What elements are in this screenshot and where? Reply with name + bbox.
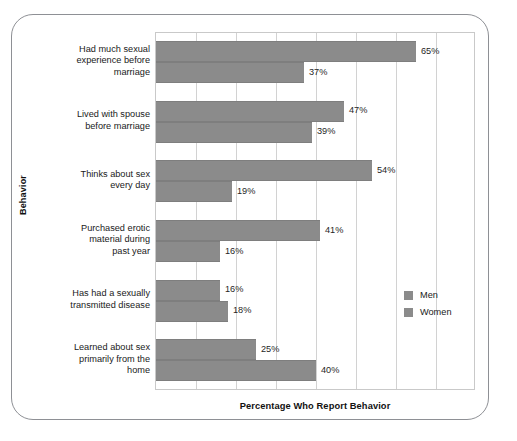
bar-value-label: 37% (309, 67, 327, 77)
category-label-line: Learned about sex (30, 342, 150, 354)
bar-value-label: 16% (225, 284, 243, 294)
category-label-line: home (30, 365, 150, 377)
bar-value-label: 25% (261, 344, 279, 354)
bar-men-0 (156, 41, 416, 62)
bar-value-label: 40% (321, 365, 339, 375)
bar-value-label: 16% (225, 246, 243, 256)
bar-women-4 (156, 301, 228, 322)
legend-item-women: Women (404, 305, 474, 319)
legend-swatch-icon (404, 308, 413, 317)
category-label: Learned about sexprimarily from thehome (30, 342, 150, 377)
bar-men-2 (156, 160, 372, 181)
chart-legend: MenWomen (404, 288, 474, 322)
bar-women-5 (156, 360, 316, 381)
bar-value-label: 39% (317, 126, 335, 136)
bar-value-label: 19% (237, 186, 255, 196)
category-label-line: experience before (30, 55, 150, 67)
bar-value-label: 18% (233, 305, 251, 315)
plot-area: 65%37%47%39%54%19%41%16%16%18%25%40% Men… (155, 32, 475, 390)
category-label: Lived with spousebefore marriage (30, 109, 150, 132)
y-axis-title: Behavior (18, 155, 28, 235)
category-label-line: primarily from the (30, 354, 150, 366)
category-label-line: marriage (30, 67, 150, 79)
category-label-line: material during (30, 234, 150, 246)
bar-women-1 (156, 122, 312, 143)
bar-men-1 (156, 101, 344, 122)
bar-value-label: 41% (325, 225, 343, 235)
bar-value-label: 47% (349, 105, 367, 115)
category-label-line: transmitted disease (30, 300, 150, 312)
category-label: Had much sexualexperience beforemarriage (30, 44, 150, 79)
category-label-line: every day (30, 180, 150, 192)
bar-women-2 (156, 181, 232, 202)
category-label: Has had a sexuallytransmitted disease (30, 288, 150, 311)
legend-swatch-icon (404, 291, 413, 300)
bar-men-5 (156, 339, 256, 360)
bars-layer: 65%37%47%39%54%19%41%16%16%18%25%40% (156, 33, 474, 389)
bar-men-4 (156, 280, 220, 301)
bar-women-3 (156, 241, 220, 262)
category-label-line: past year (30, 246, 150, 258)
legend-item-men: Men (404, 288, 474, 302)
bar-women-0 (156, 62, 304, 83)
chart-figure: Behavior Had much sexualexperience befor… (0, 0, 517, 441)
category-label-line: before marriage (30, 121, 150, 133)
category-label-column: Had much sexualexperience beforemarriage… (30, 32, 150, 390)
category-label: Thinks about sexevery day (30, 169, 150, 192)
bar-men-3 (156, 220, 320, 241)
category-label-line: Thinks about sex (30, 169, 150, 181)
bar-value-label: 65% (421, 46, 439, 56)
legend-label: Men (420, 290, 438, 300)
x-axis-title: Percentage Who Report Behavior (155, 401, 475, 411)
category-label: Purchased eroticmaterial duringpast year (30, 223, 150, 258)
bar-value-label: 54% (377, 165, 395, 175)
category-label-line: Purchased erotic (30, 223, 150, 235)
legend-label: Women (420, 307, 452, 317)
category-label-line: Has had a sexually (30, 288, 150, 300)
category-label-line: Lived with spouse (30, 109, 150, 121)
category-label-line: Had much sexual (30, 44, 150, 56)
